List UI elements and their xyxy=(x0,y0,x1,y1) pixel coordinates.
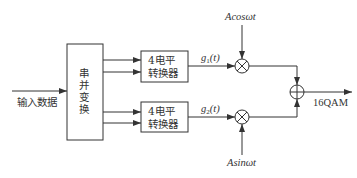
sp-char-3: 变 xyxy=(79,91,90,103)
conv1-line1: 4电平 xyxy=(148,54,175,66)
adder-icon xyxy=(290,85,304,99)
conv2-line2: 转换器 xyxy=(148,118,179,130)
multiplier-1-icon xyxy=(235,59,249,73)
conv2-line1: 4电平 xyxy=(148,105,175,117)
input-label: 输入数据 xyxy=(17,96,58,108)
g2-label: g2(t) xyxy=(201,103,220,116)
mult1-to-adder-line xyxy=(249,66,297,85)
cos-carrier-label: Acosωt xyxy=(224,11,257,22)
sin-carrier-label: Asinωt xyxy=(226,157,257,168)
sp-char-4: 换 xyxy=(79,103,90,115)
multiplier-2-icon xyxy=(235,110,249,124)
sp-char-2: 并 xyxy=(79,79,89,91)
sp-char-1: 串 xyxy=(79,67,89,79)
mult2-to-adder-line xyxy=(249,99,297,117)
conv1-line2: 转换器 xyxy=(148,67,179,79)
qam-modulator-diagram: 输入数据 串 并 变 换 4电平 转换器 4电平 转换器 g1(t) g2(t)… xyxy=(0,0,357,178)
output-label: 16QAM xyxy=(313,97,349,108)
g1-label: g1(t) xyxy=(201,52,220,65)
